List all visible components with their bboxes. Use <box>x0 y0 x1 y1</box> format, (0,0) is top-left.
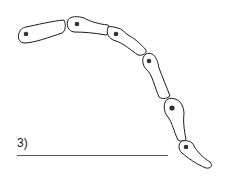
nucleus-2 <box>75 22 80 27</box>
figure-label: 3) <box>17 136 28 150</box>
cell-4 <box>143 53 170 98</box>
nucleus-5 <box>169 105 174 110</box>
nucleus-3 <box>114 32 119 37</box>
nucleus-1 <box>24 32 29 37</box>
cell-1 <box>18 20 65 43</box>
cell-6 <box>179 141 211 169</box>
cell-5 <box>164 98 186 141</box>
nucleus-6 <box>184 145 189 150</box>
cell-2 <box>67 17 109 35</box>
cell-3 <box>107 27 146 56</box>
cell-chain-diagram <box>0 0 225 195</box>
nucleus-4 <box>147 59 152 64</box>
answer-line <box>17 155 168 156</box>
